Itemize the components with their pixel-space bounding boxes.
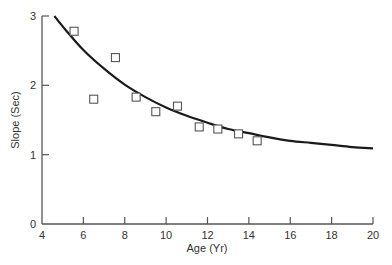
data-point-marker [111,54,119,62]
data-point-marker [90,95,98,103]
axes [42,16,373,224]
data-point-marker [152,108,160,116]
y-axis-ticks: 0123 [30,10,49,230]
x-tick-label: 20 [367,229,379,241]
x-tick-label: 6 [80,229,86,241]
data-point-marker [132,93,140,101]
x-tick-label: 16 [284,229,296,241]
y-tick-label: 2 [30,79,36,91]
x-axis-label: Age (Yr) [187,242,228,254]
x-tick-label: 8 [122,229,128,241]
x-tick-label: 10 [160,229,172,241]
data-point-marker [70,27,78,35]
x-tick-label: 4 [39,229,45,241]
data-points [70,27,261,145]
data-point-marker [214,125,222,133]
x-tick-label: 12 [201,229,213,241]
data-point-marker [253,137,261,145]
data-point-marker [235,130,243,138]
data-point-marker [195,123,203,131]
y-tick-label: 1 [30,149,36,161]
y-tick-label: 3 [30,10,36,22]
scatter-chart: 468101214161820 0123 Age (Yr) Slope (Sec… [0,0,392,265]
y-tick-label: 0 [30,218,36,230]
x-tick-label: 14 [243,229,255,241]
x-axis-ticks: 468101214161820 [39,217,379,241]
data-point-marker [174,102,182,110]
y-axis-label: Slope (Sec) [9,91,21,148]
x-tick-label: 18 [326,229,338,241]
